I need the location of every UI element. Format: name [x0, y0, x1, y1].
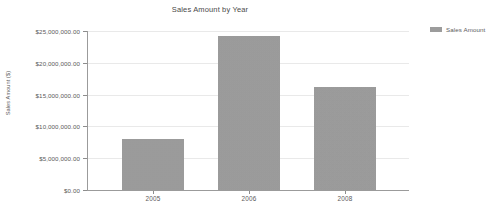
- y-tick-label: $0.00: [64, 187, 80, 194]
- bar-2005[interactable]: [122, 139, 184, 191]
- gridline: [87, 31, 409, 32]
- bar-2006[interactable]: [218, 36, 280, 191]
- y-tick-label: $15,000,000.00: [36, 91, 80, 98]
- y-tick-label: $20,000,000.00: [36, 59, 80, 66]
- legend-label-sales-amount: Sales Amount: [446, 26, 485, 33]
- plot-area: [87, 31, 409, 190]
- legend-swatch-sales-amount: [430, 27, 442, 32]
- bar-2008[interactable]: [314, 87, 376, 190]
- chart-container: Sales Amount by Year Sales Amount ($) $2…: [0, 0, 498, 210]
- y-axis-labels: $25,000,000.00 $20,000,000.00 $15,000,00…: [0, 0, 80, 210]
- x-tick-label-1: 2006: [229, 195, 269, 202]
- x-tick-mark: [249, 191, 250, 194]
- x-tick-mark: [153, 191, 154, 194]
- legend: Sales Amount: [430, 26, 485, 33]
- x-tick-label-0: 2005: [133, 195, 173, 202]
- x-tick-mark: [345, 191, 346, 194]
- x-axis-line: [87, 190, 409, 191]
- y-tick-label: $25,000,000.00: [36, 28, 80, 35]
- x-tick-label-2: 2008: [325, 195, 365, 202]
- y-tick-label: $5,000,000.00: [39, 155, 80, 162]
- y-axis-line: [87, 31, 88, 191]
- y-tick-label: $10,000,000.00: [36, 123, 80, 130]
